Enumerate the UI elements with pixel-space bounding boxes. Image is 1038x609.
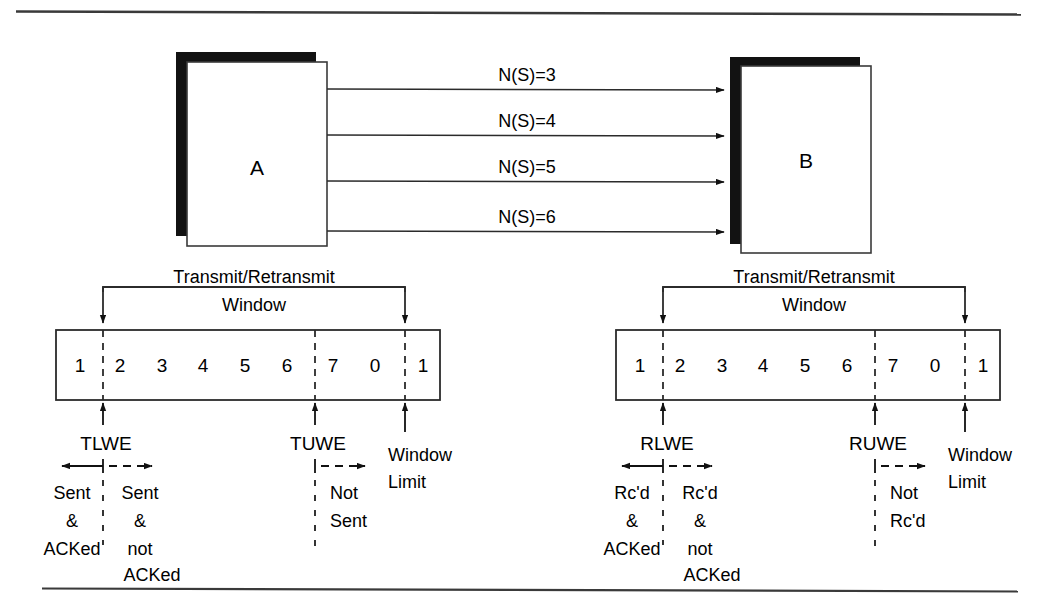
transmit-window-limit-line2: Limit	[388, 473, 426, 491]
frame-label-2: N(S)=4	[498, 112, 556, 130]
transmit-not-acked-line2: &	[134, 512, 146, 530]
frame-arrow-2	[327, 135, 724, 136]
receive-not-acked-line3: not	[687, 540, 712, 558]
receive-cell-0: 1	[635, 356, 646, 375]
transmit-cell-1: 2	[115, 356, 126, 375]
receive-window-limit-line2: Limit	[948, 473, 986, 491]
ruwe-label: RUWE	[849, 434, 907, 453]
receive-not-rcd-line2: Rc'd	[890, 512, 925, 530]
transmit-bracket-title-line2: Window	[222, 296, 286, 314]
receive-window-limit-line1: Window	[948, 446, 1012, 464]
transmit-cell-0: 1	[75, 356, 86, 375]
receive-cell-3: 4	[758, 356, 769, 375]
receive-cell-1: 2	[675, 356, 686, 375]
receive-acked-line3: ACKed	[603, 540, 660, 558]
receive-acked-line1: Rc'd	[614, 484, 649, 502]
receive-bracket-title-line1: Transmit/Retransmit	[733, 268, 894, 286]
transmit-cell-3: 4	[198, 356, 209, 375]
receive-not-acked-line2: &	[694, 512, 706, 530]
transmit-bracket-title-line1: Transmit/Retransmit	[173, 268, 334, 286]
frame-arrow-4	[327, 231, 724, 232]
node-a-box	[187, 62, 327, 246]
receive-cell-8: 1	[978, 356, 989, 375]
tuwe-label: TUWE	[290, 434, 346, 453]
receive-bracket-title-line2: Window	[782, 296, 846, 314]
bottom-rule	[42, 589, 1018, 592]
receive-acked-line2: &	[626, 512, 638, 530]
transmit-window-limit-line1: Window	[388, 446, 452, 464]
transmit-acked-line3: ACKed	[43, 540, 100, 558]
transmit-not-sent-line1: Not	[330, 484, 358, 502]
diagram-vectors	[0, 0, 1038, 609]
frame-arrow-1	[327, 89, 724, 90]
receive-not-acked-line4: ACKed	[683, 566, 740, 584]
transmit-cell-8: 1	[418, 356, 429, 375]
transmit-window-bracket	[103, 287, 405, 292]
frame-label-3: N(S)=5	[498, 158, 556, 176]
frame-label-1: N(S)=3	[498, 66, 556, 84]
transmit-not-acked-line4: ACKed	[123, 566, 180, 584]
transmit-cell-4: 5	[240, 356, 251, 375]
transmit-not-acked-line3: not	[127, 540, 152, 558]
transmit-not-acked-line1: Sent	[121, 484, 158, 502]
tlwe-label: TLWE	[80, 434, 131, 453]
top-rule	[16, 12, 1021, 15]
receive-window-bracket	[663, 287, 965, 292]
node-b-label: B	[799, 150, 813, 171]
rlwe-label: RLWE	[640, 434, 693, 453]
receive-cell-7: 0	[930, 356, 941, 375]
transmit-cell-5: 6	[282, 356, 293, 375]
node-a-label: A	[250, 157, 264, 178]
transmit-not-sent-line2: Sent	[330, 512, 367, 530]
receive-cell-5: 6	[842, 356, 853, 375]
transmit-acked-line2: &	[66, 512, 78, 530]
receive-cell-6: 7	[888, 356, 899, 375]
sliding-window-figure: A B N(S)=3 N(S)=4 N(S)=5 N(S)=6 Transmit…	[0, 0, 1038, 609]
transmit-acked-line1: Sent	[53, 484, 90, 502]
receive-not-acked-line1: Rc'd	[682, 484, 717, 502]
receive-not-rcd-line1: Not	[890, 484, 918, 502]
transmit-cell-2: 3	[157, 356, 168, 375]
frame-label-4: N(S)=6	[498, 208, 556, 226]
frame-arrow-3	[327, 181, 724, 182]
transmit-cell-7: 0	[370, 356, 381, 375]
transmit-cell-6: 7	[328, 356, 339, 375]
receive-cell-4: 5	[800, 356, 811, 375]
receive-cell-2: 3	[717, 356, 728, 375]
